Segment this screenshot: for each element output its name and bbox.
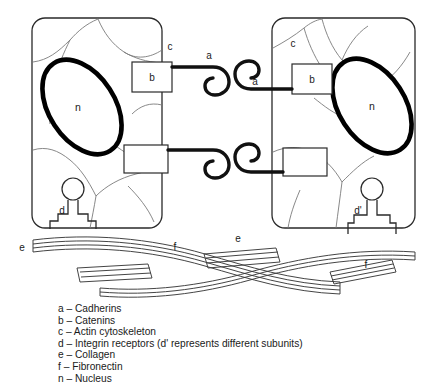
fibronectin-label-right: f [365, 259, 368, 270]
left-cytoskeleton-label: c [168, 41, 173, 52]
collagen-label-right: e [235, 233, 241, 244]
cadherin-junction-lower [168, 144, 283, 178]
right-cell: n c b [272, 18, 428, 228]
right-catenin-box-lower [283, 148, 327, 176]
left-nucleus-label: n [75, 101, 81, 113]
legend-item: a – Cadherins [58, 303, 398, 315]
right-integrin-head [361, 178, 383, 200]
left-integrin-head [62, 178, 84, 200]
collagen-fiber-right [100, 251, 415, 297]
cadherin-label-left: a [206, 50, 212, 61]
right-nucleus-label: n [369, 100, 375, 112]
right-cytoskeleton-label: c [291, 38, 296, 49]
extracellular-matrix [33, 237, 415, 297]
left-cell: n c b [26, 18, 172, 228]
legend-item: b – Catenins [58, 315, 398, 327]
fibronectin-band-right [330, 260, 396, 284]
legend-item: f – Fibronectin [58, 361, 398, 373]
right-integrin-label: d' [354, 205, 362, 216]
fibronectin-label-left: f [174, 241, 177, 252]
legend-item: c – Actin cytoskeleton [58, 326, 398, 338]
cadherin-label-right: a [252, 76, 258, 87]
legend: a – Cadherins b – Catenins c – Actin cyt… [58, 303, 398, 384]
left-catenin-label: b [149, 72, 155, 83]
legend-item: n – Nucleus [58, 373, 398, 384]
left-catenin-box-lower [124, 145, 168, 173]
legend-item: d – Integrin receptors (d' represents di… [58, 338, 398, 350]
legend-item: e – Collagen [58, 349, 398, 361]
fibronectin-band-left [77, 264, 152, 282]
collagen-label-left: e [19, 242, 25, 253]
right-catenin-label: b [309, 74, 315, 85]
left-integrin-label: d [59, 205, 65, 216]
